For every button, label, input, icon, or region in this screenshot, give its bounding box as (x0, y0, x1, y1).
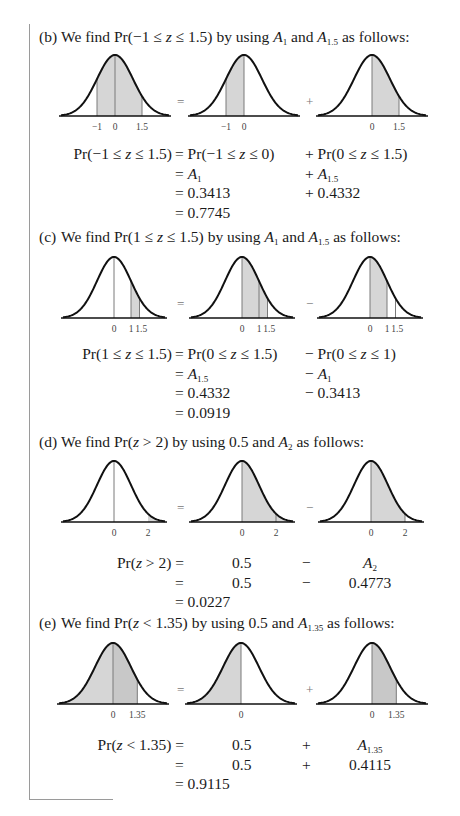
heading-text: as follows: (329, 228, 400, 245)
axis-tick-label: 0 (370, 122, 375, 132)
minus-sign: − (306, 500, 313, 516)
axis-tick-label: 1.5 (263, 324, 275, 334)
equation-term: A1.35 (357, 736, 382, 754)
heading-text: ≤ 1.5) by using (172, 28, 274, 45)
shaded-area (187, 643, 241, 704)
area-symbol: A (318, 165, 327, 182)
axis-tick-label: 0 (111, 710, 116, 720)
equation-middle: = A1 (175, 165, 202, 183)
area-subscript: 1.35 (367, 745, 383, 755)
area-subscript: 1.35 (307, 623, 323, 633)
area-symbol: A (265, 228, 274, 245)
axis-tick-label: 0 (112, 528, 117, 538)
normal-curve-panel: 01.35 (316, 643, 428, 720)
heading-join: and (287, 28, 317, 45)
part-heading-c: (c)We find Pr(1 ≤ z ≤ 1.5) by using A1 a… (39, 228, 401, 246)
area-symbol: A (309, 228, 318, 245)
axis-tick-label: 0 (239, 710, 244, 720)
axis-tick-label: 1.5 (393, 122, 405, 132)
axis-tick-label: 0 (240, 528, 245, 538)
axis-tick-label: 0 (113, 122, 118, 132)
variable-z: z (125, 145, 131, 162)
area-symbol: A (318, 365, 327, 382)
variable-z: z (361, 145, 367, 162)
equation-middle: = 0.7745 (175, 204, 230, 222)
normal-curve-panel: 02 (318, 461, 424, 538)
equation-lhs: Pr(z > 2) = (117, 554, 184, 572)
part-heading-e: (e)We find Pr(z < 1.35) by using 0.5 and… (39, 614, 395, 632)
plus-sign: + (306, 94, 313, 110)
equation-lhs: = 0.9115 (175, 775, 230, 793)
heading-text: We find Pr(−1 ≤ (61, 28, 166, 45)
shaded-area (59, 643, 113, 704)
normal-curve-panel: 0 (185, 643, 297, 720)
heading-join: and (278, 228, 308, 245)
normal-curve-panel: 01.35 (57, 643, 169, 720)
variable-z: z (136, 554, 142, 571)
normal-curve-panel: 011.5 (61, 257, 167, 334)
area-subscript: 1.5 (318, 237, 329, 247)
frame-bottom-rule (29, 799, 113, 800)
axis-tick-label: −1 (221, 122, 231, 132)
equation-lhs: Pr(−1 ≤ z ≤ 1.5) (73, 145, 172, 163)
axis-tick-label: 2 (274, 528, 279, 538)
equation-operator: + (302, 736, 311, 754)
heading-text: as follows: (323, 614, 394, 631)
equation-right: + Pr(0 ≤ z ≤ 1.5) (305, 145, 407, 163)
equals-sign: = (177, 500, 184, 516)
part-label: (e) (39, 614, 61, 632)
shaded-area (242, 461, 293, 522)
equation-lhs: = (175, 574, 184, 592)
variable-z: z (125, 345, 131, 362)
minus-sign: − (306, 296, 313, 312)
equation-term: 0.5 (232, 574, 251, 592)
area-symbol: A (273, 28, 282, 45)
equation-middle: = 0.0919 (175, 404, 230, 422)
equation-right: + 0.4332 (305, 184, 360, 202)
part-heading-b: (b)We find Pr(−1 ≤ z ≤ 1.5) by using A1 … (39, 28, 410, 46)
area-symbol: A (188, 365, 197, 382)
area-symbol: A (317, 28, 326, 45)
equation-right: − Pr(0 ≤ z ≤ 1) (305, 345, 396, 363)
normal-curve-figure-e: 01.35001.35=+ (0, 638, 460, 728)
area-subscript: 1 (197, 174, 202, 184)
equation-term: 0.5 (232, 756, 251, 774)
shaded-area (226, 55, 244, 116)
equation-lhs: Pr(z < 1.35) = (98, 736, 184, 754)
heading-text: We find Pr(1 ≤ (61, 228, 157, 245)
variable-z: z (117, 736, 123, 753)
area-subscript: 1.5 (197, 374, 208, 384)
equation-operator: − (302, 574, 311, 592)
equation-right: + A1.5 (305, 165, 338, 183)
shaded-area (372, 55, 399, 116)
heading-text: ≤ 1.5) by using (163, 228, 265, 245)
variable-z: z (231, 345, 237, 362)
equation-lhs: Pr(1 ≤ z ≤ 1.5) (82, 345, 172, 363)
normal-curve-figure-d: 020202=− (0, 456, 460, 546)
normal-curve-figure-c: 011.5011.5011.5=− (0, 252, 460, 342)
normal-curve-panel: −10 (188, 55, 300, 132)
axis-tick-label: 2 (403, 528, 408, 538)
equation-operator: − (302, 554, 311, 572)
equation-lhs: = 0.0227 (175, 593, 230, 611)
axis-tick-label: 2 (146, 528, 151, 538)
axis-tick-label: 1 (257, 324, 262, 334)
equals-sign: = (177, 296, 184, 312)
equation-middle: = Pr(0 ≤ z ≤ 1.5) (175, 345, 277, 363)
area-subscript: 1.5 (327, 174, 338, 184)
equation-right: − A1 (305, 365, 332, 383)
axis-tick-label: 0 (112, 324, 117, 334)
shaded-area (131, 281, 140, 318)
equation-right: − 0.3413 (305, 384, 360, 402)
plus-sign: + (306, 682, 313, 698)
axis-tick-label: 1 (129, 324, 134, 334)
axis-tick-label: 1.35 (388, 710, 405, 720)
axis-tick-label: 0 (369, 528, 374, 538)
normal-curve-panel: 02 (189, 461, 295, 538)
heading-text: > 2) by using 0.5 and (139, 433, 279, 450)
shaded-area (370, 257, 387, 318)
equation-middle: = A1.5 (175, 365, 208, 383)
equation-lhs: = (175, 756, 184, 774)
equation-term: 0.4773 (349, 574, 392, 592)
axis-tick-label: 1.5 (135, 324, 147, 334)
